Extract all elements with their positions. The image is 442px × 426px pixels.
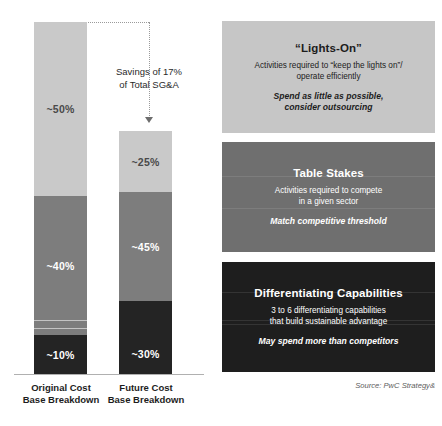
card-differentiating-desc-line1: 3 to 6 differentiating capabilities — [270, 306, 387, 317]
card-table-stakes-desc-line1: Activities required to compete — [275, 186, 382, 197]
callout-arrow-icon — [145, 117, 153, 123]
bar-2-differentiating-label: ~30% — [132, 348, 160, 360]
axis-label-future-cost-line1: Future Cost — [96, 382, 196, 394]
card-table-stakes-title: Table Stakes — [293, 167, 364, 179]
scanline-decor-1 — [222, 176, 435, 177]
axis-label-future-cost: Future Cost Base Breakdown — [96, 382, 196, 406]
bar-2-table-stakes-label: ~45% — [132, 241, 160, 253]
axis-label-future-cost-line2: Base Breakdown — [96, 394, 196, 406]
bar-1-table-stakes-label: ~40% — [47, 260, 75, 272]
card-differentiating-action-line1: May spend more than competitors — [259, 336, 399, 347]
card-differentiating-desc-line2: that build sustainable advantage — [270, 317, 387, 328]
bar-2-segment-differentiating[interactable]: ~30% — [119, 301, 172, 374]
bar-1-segment-lights-on[interactable]: ~50% — [34, 22, 87, 196]
card-table-stakes-action-line1: Match competitive threshold — [270, 216, 387, 227]
category-cards-panel: “Lights-On” Activities required to “keep… — [222, 0, 435, 426]
chart-baseline — [14, 374, 204, 375]
savings-callout-line1: Savings of 17% — [79, 66, 219, 79]
card-differentiating-title: Differentiating Capabilities — [254, 287, 403, 299]
scanline-decor-3 — [222, 292, 435, 293]
card-lights-on-title: “Lights-On” — [295, 42, 362, 54]
bar-1-segment-table-stakes[interactable]: ~40% — [34, 196, 87, 335]
scanline-decor-4 — [222, 320, 435, 321]
scanline-decor-5 — [222, 324, 435, 325]
card-table-stakes[interactable]: Table Stakes Activities required to comp… — [222, 142, 435, 252]
bar-1-lights-on-label: ~50% — [47, 103, 75, 115]
bar-original-cost-base[interactable]: ~50% ~40% ~10% — [34, 22, 87, 374]
card-table-stakes-description: Activities required to compete in a give… — [275, 186, 382, 207]
card-lights-on-action-line1: Spend as little as possible, — [274, 91, 384, 102]
card-differentiating-action: May spend more than competitors — [259, 336, 399, 347]
card-differentiating-capabilities[interactable]: Differentiating Capabilities 3 to 6 diff… — [222, 262, 435, 372]
slide-root: Savings of 17% of Total SG&A ~50% ~40% ~… — [0, 0, 442, 426]
bar-future-cost-base[interactable]: ~25% ~45% ~30% — [119, 131, 172, 374]
source-attribution: Source: PwC Strategy& — [355, 381, 435, 390]
card-lights-on-action: Spend as little as possible, consider ou… — [274, 91, 384, 112]
scanline-decor-2 — [222, 208, 435, 209]
bar-2-lights-on-label: ~25% — [132, 156, 160, 168]
card-lights-on-desc-line2: operate efficiently — [255, 72, 403, 83]
card-lights-on-action-line2: consider outsourcing — [274, 102, 384, 113]
card-lights-on-desc-line1: Activities required to “keep the lights … — [255, 61, 403, 72]
bar-2-segment-lights-on[interactable]: ~25% — [119, 131, 172, 192]
cost-base-stacked-bar-chart: Savings of 17% of Total SG&A ~50% ~40% ~… — [0, 0, 215, 426]
bar-2-segment-table-stakes[interactable]: ~45% — [119, 192, 172, 301]
card-table-stakes-desc-line2: in a given sector — [275, 197, 382, 208]
bar-1-divider-lower — [34, 328, 87, 329]
savings-callout-line2: of Total SG&A — [79, 79, 219, 92]
savings-callout: Savings of 17% of Total SG&A — [79, 66, 219, 91]
card-lights-on-description: Activities required to “keep the lights … — [255, 61, 403, 82]
bar-1-divider-upper — [34, 320, 87, 321]
card-lights-on[interactable]: “Lights-On” Activities required to “keep… — [222, 21, 435, 133]
card-table-stakes-action: Match competitive threshold — [270, 216, 387, 227]
bar-1-segment-differentiating[interactable]: ~10% — [34, 335, 87, 374]
bar-1-differentiating-label: ~10% — [47, 349, 75, 361]
